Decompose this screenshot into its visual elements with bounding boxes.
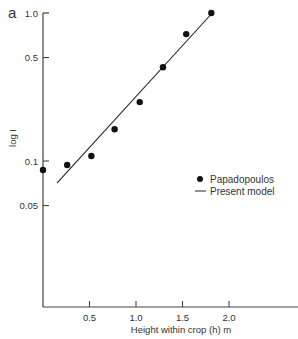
x-tick-label: 2.0 xyxy=(222,312,235,323)
x-tick-label: 0.5 xyxy=(83,312,96,323)
y-axis-label: log I xyxy=(7,129,18,147)
axes xyxy=(43,13,298,307)
plot-area xyxy=(40,10,215,183)
y-tick-label: 0.5 xyxy=(25,52,38,63)
data-point xyxy=(183,31,189,37)
y-tick-label: 1.0 xyxy=(25,8,38,19)
y-tick-label: 0.05 xyxy=(20,200,39,211)
model-line xyxy=(57,13,212,183)
y-ticks: 1.00.50.10.05 xyxy=(20,8,50,212)
data-point xyxy=(137,99,143,105)
data-point xyxy=(64,162,70,168)
legend-label-papadopoulos: Papadopoulos xyxy=(210,174,274,185)
panel-label: a xyxy=(8,4,17,21)
data-point xyxy=(88,153,94,159)
data-point xyxy=(208,10,214,16)
legend-dot-icon xyxy=(197,176,203,182)
legend-label-present-model: Present model xyxy=(210,186,274,197)
x-tick-label: 1.5 xyxy=(176,312,189,323)
x-ticks: 0.51.01.52.0 xyxy=(83,301,236,323)
data-point xyxy=(111,126,117,132)
data-point xyxy=(160,64,166,70)
legend: Papadopoulos Present model xyxy=(195,174,274,197)
x-axis-label: Height within crop (h) m xyxy=(131,324,231,335)
y-tick-label: 0.1 xyxy=(25,156,38,167)
data-point xyxy=(40,167,46,173)
x-tick-label: 1.0 xyxy=(129,312,142,323)
chart: 1.00.50.10.05 0.51.01.52.0 a log I Heigh… xyxy=(0,0,298,339)
